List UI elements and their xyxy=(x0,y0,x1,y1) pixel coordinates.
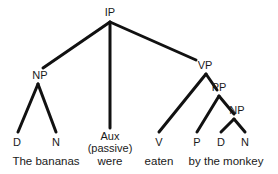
branch-np-object-to-n xyxy=(234,119,245,132)
branch-vp-to-v xyxy=(159,74,206,132)
word-pp-phrase: by the monkey xyxy=(189,155,264,168)
node-pp: PP xyxy=(212,81,227,93)
terminal-aux: Aux xyxy=(101,130,120,142)
branch-np-to-d xyxy=(18,84,38,132)
terminal-v: V xyxy=(155,136,162,148)
word-verb: eaten xyxy=(145,155,174,168)
branch-np-object-to-d xyxy=(221,119,234,132)
syntax-tree-figure: IP NP VP PP NP D N Aux (passive) V P D N… xyxy=(0,0,278,174)
node-vp: VP xyxy=(198,59,213,71)
node-ip: IP xyxy=(105,6,115,18)
terminal-aux-feature: (passive) xyxy=(88,142,133,154)
branch-pp-to-p xyxy=(197,96,219,132)
node-np-object: NP xyxy=(229,104,244,116)
branch-np-to-n xyxy=(38,84,56,132)
word-subject-phrase: The bananas xyxy=(12,155,79,168)
terminal-p: P xyxy=(193,136,200,148)
branch-ip-to-np xyxy=(43,22,110,68)
terminal-d-subject: D xyxy=(13,136,21,148)
tree-branch-lines xyxy=(0,0,278,174)
word-aux: were xyxy=(98,155,123,168)
branch-ip-to-vp xyxy=(110,22,196,60)
terminal-n-subject: N xyxy=(52,136,60,148)
terminal-n-object: N xyxy=(241,136,249,148)
node-np-subject: NP xyxy=(32,69,47,81)
terminal-d-object: D xyxy=(217,136,225,148)
